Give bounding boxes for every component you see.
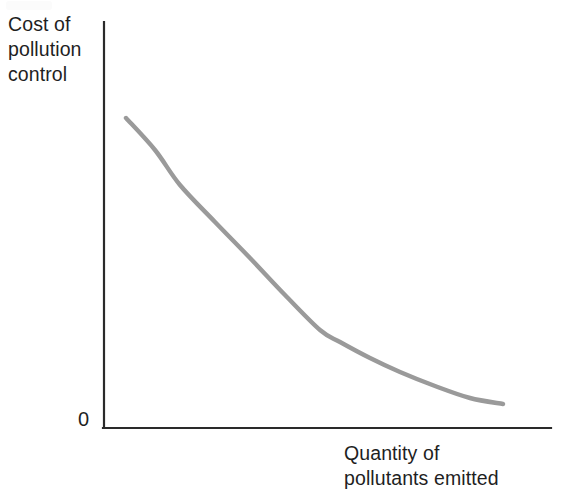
x-axis-label: Quantity of pollutants emitted: [344, 441, 499, 491]
y-axis-label: Cost of pollution control: [8, 12, 82, 87]
pollution-control-cost-curve: [126, 118, 503, 404]
origin-label: 0: [78, 408, 89, 430]
chart-figure: Cost of pollution control 0 Quantity of …: [0, 0, 577, 502]
